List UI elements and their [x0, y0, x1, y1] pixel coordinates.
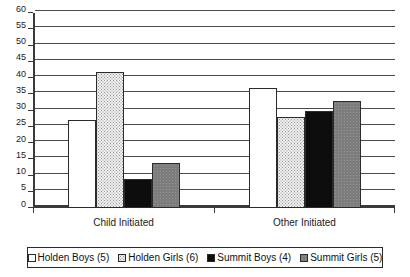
legend-item[interactable]: Summit Girls (5): [300, 252, 382, 263]
bar: [305, 111, 333, 209]
bar: [68, 120, 96, 208]
legend-item[interactable]: Holden Boys (5): [28, 252, 110, 263]
y-axis: 051015202530354045505560: [0, 13, 33, 208]
y-axis-label: 55: [16, 20, 26, 29]
x-axis: Child InitiatedOther Initiated: [33, 208, 395, 234]
y-axis-label: 60: [16, 4, 26, 13]
legend-swatch-icon: [28, 254, 36, 262]
gridline: [35, 10, 395, 11]
legend-item[interactable]: Holden Girls (6): [118, 252, 198, 263]
chart-legend: Holden Boys (5)Holden Girls (6)Summit Bo…: [27, 247, 383, 268]
bar-chart: 051015202530354045505560 Child Initiated…: [0, 0, 410, 277]
y-axis-label: 5: [21, 183, 26, 192]
legend-swatch-icon: [118, 254, 126, 262]
bar: [333, 101, 361, 208]
legend-label: Summit Girls (5): [310, 252, 382, 263]
legend-swatch-icon: [300, 254, 308, 262]
y-axis-label: 35: [16, 85, 26, 94]
legend-label: Holden Girls (6): [128, 252, 198, 263]
x-axis-tick: [394, 208, 395, 213]
x-axis-category-label: Child Initiated: [93, 217, 154, 229]
legend-label: Summit Boys (4): [217, 252, 291, 263]
x-axis-tick: [214, 208, 215, 213]
y-axis-label: 50: [16, 37, 26, 46]
y-axis-label: 10: [16, 167, 26, 176]
bar: [249, 88, 277, 208]
bar: [277, 117, 305, 208]
bar: [152, 163, 180, 209]
y-axis-label: 40: [16, 69, 26, 78]
y-axis-label: 45: [16, 53, 26, 62]
y-axis-label: 0: [21, 199, 26, 208]
bar: [96, 72, 124, 209]
x-axis-tick: [33, 208, 34, 213]
y-axis-label: 30: [16, 102, 26, 111]
legend-label: Holden Boys (5): [38, 252, 110, 263]
legend-item[interactable]: Summit Boys (4): [207, 252, 291, 263]
y-axis-label: 15: [16, 150, 26, 159]
legend-swatch-icon: [207, 254, 215, 262]
y-axis-label: 25: [16, 118, 26, 127]
y-axis-label: 20: [16, 134, 26, 143]
bar: [124, 179, 152, 208]
x-axis-category-label: Other Initiated: [273, 217, 336, 229]
bars-layer: [33, 13, 395, 208]
